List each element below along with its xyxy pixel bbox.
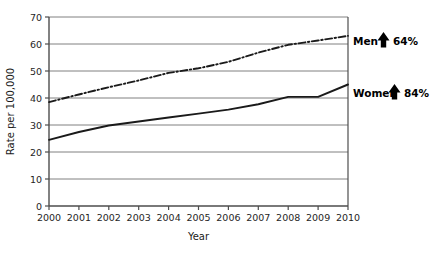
x-tick-label-2003: 2003 <box>127 212 151 223</box>
x-axis-title: Year <box>187 231 210 242</box>
y-tick-label-70: 70 <box>30 12 42 23</box>
y-tick-label-20: 20 <box>30 147 42 158</box>
y-tick-label-40: 40 <box>30 93 42 104</box>
up-arrow-icon-shape <box>378 32 390 48</box>
y-tick-labels: 70 60 50 40 30 20 10 0 <box>30 12 42 212</box>
chart-figure: 70 60 50 40 30 20 10 0 2000 2001 <box>0 0 431 254</box>
x-tick-label-2000: 2000 <box>37 212 61 223</box>
x-tick-labels: 2000 2001 2002 2003 2004 2005 2006 2007 … <box>37 212 360 223</box>
y-tick-label-30: 30 <box>30 120 42 131</box>
annotation-women: Women 84% <box>353 84 430 100</box>
up-arrow-icon <box>378 32 390 48</box>
annotation-men-value: 64% <box>393 35 419 47</box>
line-chart-svg: 70 60 50 40 30 20 10 0 2000 2001 <box>0 0 431 254</box>
y-tick-label-50: 50 <box>30 66 42 77</box>
x-tick-label-2002: 2002 <box>97 212 121 223</box>
annotation-women-value: 84% <box>404 87 430 99</box>
x-tick-label-2001: 2001 <box>67 212 91 223</box>
x-tick-label-2004: 2004 <box>157 212 181 223</box>
annotation-men-label: Men <box>353 35 378 47</box>
x-tick-label-2010: 2010 <box>336 212 360 223</box>
y-tick-label-60: 60 <box>30 39 42 50</box>
x-tick-label-2009: 2009 <box>306 212 330 223</box>
plot-area-background <box>49 17 348 206</box>
y-axis-title: Rate per 100,000 <box>5 68 16 155</box>
x-tick-label-2006: 2006 <box>216 212 240 223</box>
y-tick-label-0: 0 <box>36 201 42 212</box>
x-tick-label-2008: 2008 <box>276 212 300 223</box>
y-tick-label-10: 10 <box>30 174 42 185</box>
x-tick-label-2007: 2007 <box>246 212 270 223</box>
annotation-men: Men 64% <box>353 32 419 48</box>
x-tick-label-2005: 2005 <box>186 212 210 223</box>
